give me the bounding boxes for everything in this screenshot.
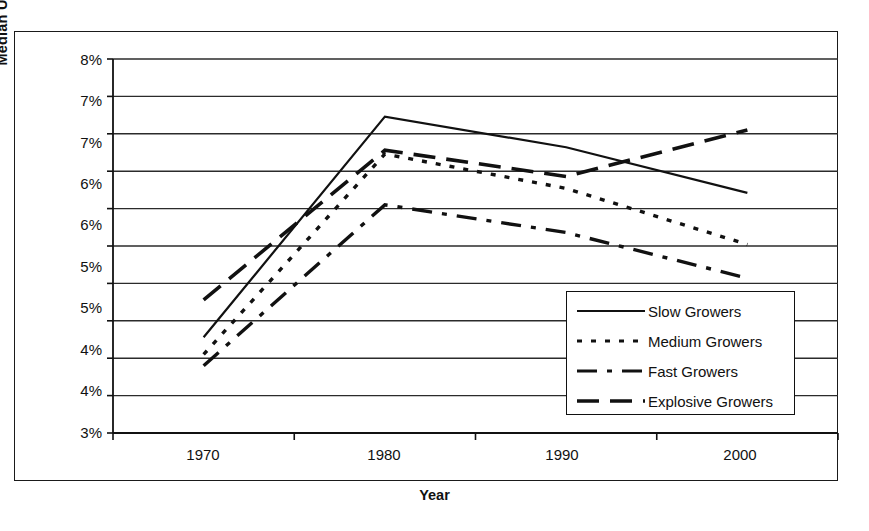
- legend-item-fast-growers: Fast Growers: [567, 356, 794, 386]
- legend-label: Explosive Growers: [648, 393, 773, 410]
- legend-swatch-long-dash: [575, 395, 647, 407]
- legend-label: Medium Growers: [648, 333, 762, 350]
- chart-legend: Slow Growers Medium Growers Fast Growers…: [566, 291, 795, 415]
- series-line-explosive-growers: [204, 130, 748, 300]
- legend-item-explosive-growers: Explosive Growers: [567, 386, 794, 416]
- legend-label: Slow Growers: [648, 303, 741, 320]
- legend-label: Fast Growers: [648, 363, 738, 380]
- legend-swatch-solid: [575, 305, 647, 317]
- x-axis-ticks: [113, 433, 838, 440]
- legend-swatch-dotted: [575, 335, 647, 347]
- legend-swatch-dash-dot: [575, 365, 647, 377]
- chart-page: Median Unemployment Rate 8% 7% 7% 6% 6% …: [0, 0, 869, 531]
- legend-item-slow-growers: Slow Growers: [567, 296, 794, 326]
- legend-item-medium-growers: Medium Growers: [567, 326, 794, 356]
- chart-plot-area: [0, 0, 869, 531]
